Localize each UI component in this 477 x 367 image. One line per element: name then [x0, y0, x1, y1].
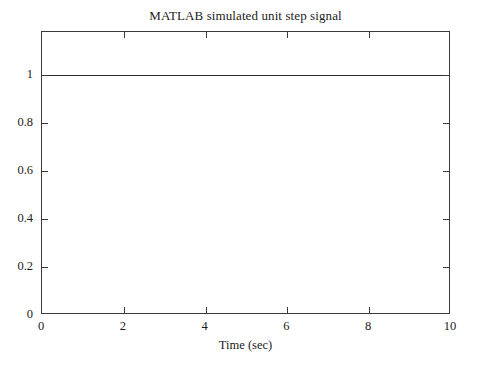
y-tick-mark: [443, 219, 449, 220]
x-tick-mark: [369, 32, 370, 38]
y-tick-label: 0.4: [0, 212, 33, 224]
y-tick-mark: [443, 267, 449, 268]
x-tick-mark: [369, 307, 370, 313]
y-tick-mark: [42, 123, 48, 124]
x-tick-label: 4: [185, 320, 225, 333]
y-tick-label: 0: [0, 308, 33, 320]
x-tick-mark: [124, 307, 125, 313]
y-tick-mark: [42, 267, 48, 268]
plot-inner: [42, 32, 449, 313]
x-tick-label: 2: [103, 320, 143, 333]
x-tick-label: 0: [21, 320, 61, 333]
figure-canvas: MATLAB simulated unit step signal 00.20.…: [0, 0, 477, 367]
y-tick-mark: [42, 75, 48, 76]
plot-area: [41, 31, 450, 314]
y-tick-label: 0.2: [0, 260, 33, 272]
x-tick-mark: [124, 32, 125, 38]
data-series-unit-step: [42, 75, 449, 76]
y-tick-mark: [443, 123, 449, 124]
x-tick-mark: [287, 32, 288, 38]
x-tick-mark: [287, 307, 288, 313]
x-tick-label: 8: [348, 320, 388, 333]
y-tick-label: 1: [0, 68, 33, 80]
x-tick-label: 6: [266, 320, 306, 333]
x-tick-mark: [206, 32, 207, 38]
y-tick-label: 0.6: [0, 164, 33, 176]
y-tick-mark: [42, 171, 48, 172]
chart-title: MATLAB simulated unit step signal: [41, 8, 450, 24]
y-tick-label: 0.8: [0, 116, 33, 128]
x-tick-label: 10: [430, 320, 470, 333]
y-tick-mark: [42, 219, 48, 220]
x-tick-mark: [206, 307, 207, 313]
x-axis-label: Time (sec): [41, 338, 450, 352]
y-tick-mark: [443, 171, 449, 172]
y-tick-mark: [443, 75, 449, 76]
